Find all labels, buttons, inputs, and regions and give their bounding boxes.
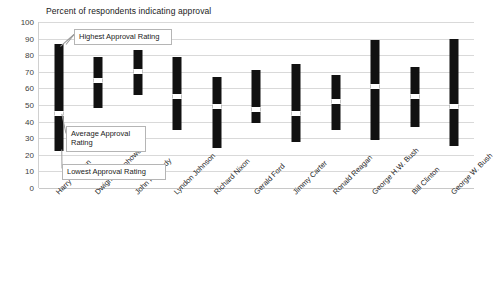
y-axis: 0102030405060708090100	[0, 22, 34, 188]
bar-average-marker	[331, 99, 340, 104]
bar-average-marker	[371, 84, 380, 89]
bar-range	[54, 44, 63, 152]
y-tick-label: 10	[2, 167, 34, 176]
y-tick-label: 70	[2, 67, 34, 76]
y-tick-label: 30	[2, 134, 34, 143]
bar-range	[292, 64, 301, 142]
y-tick-label: 20	[2, 150, 34, 159]
chart-title: Percent of respondents indicating approv…	[46, 6, 211, 16]
callout-highest-approval: Highest Approval Rating	[74, 29, 172, 45]
callout-average-approval: Average Approval Rating	[66, 126, 146, 152]
bar-range	[371, 40, 380, 140]
bar-range	[450, 39, 459, 147]
callout-lowest-label: Lowest Approval Rating	[67, 167, 146, 176]
bar-average-marker	[212, 104, 221, 109]
y-tick-label: 90	[2, 34, 34, 43]
bar-average-marker	[173, 94, 182, 99]
y-tick-label: 60	[2, 84, 34, 93]
bar-average-marker	[94, 78, 103, 83]
x-axis: Harry TrumanDwight EisenhowerJohn Kenned…	[38, 190, 473, 282]
bar-average-marker	[450, 104, 459, 109]
bar-average-marker	[252, 107, 261, 112]
callout-average-label: Average Approval Rating	[71, 129, 130, 147]
bar-average-marker	[292, 111, 301, 116]
bar-range	[252, 70, 261, 123]
bar-average-marker	[133, 69, 142, 74]
y-tick-label: 100	[2, 18, 34, 27]
callout-lowest-approval: Lowest Approval Rating	[62, 164, 166, 180]
bar-average-marker	[410, 94, 419, 99]
bar-group	[434, 22, 474, 188]
y-tick-label: 50	[2, 101, 34, 110]
y-tick-label: 0	[2, 184, 34, 193]
y-tick-label: 80	[2, 51, 34, 60]
callout-highest-label: Highest Approval Rating	[79, 32, 159, 41]
y-tick-label: 40	[2, 117, 34, 126]
bar-range	[212, 77, 221, 148]
